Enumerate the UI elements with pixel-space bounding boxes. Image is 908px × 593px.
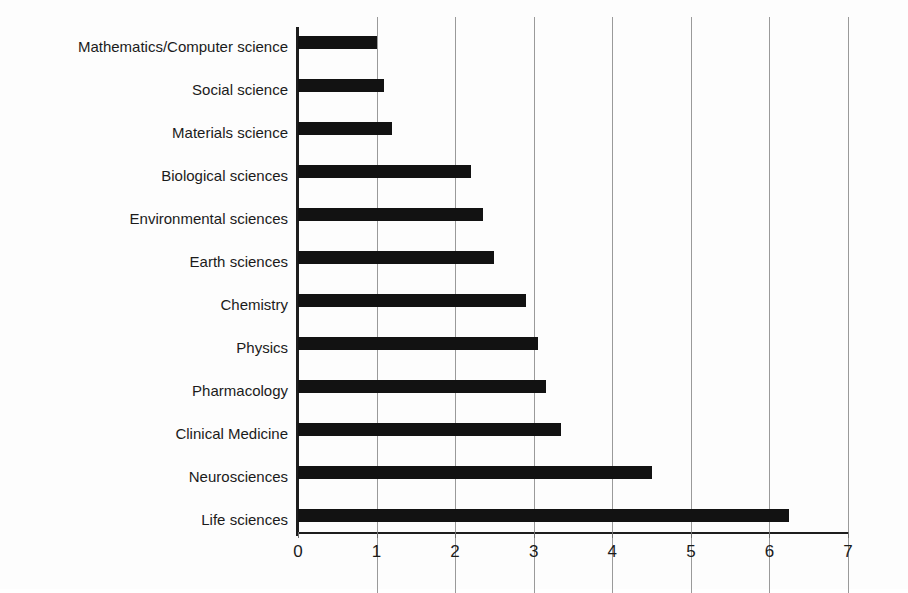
- y-axis-line: [296, 27, 299, 536]
- x-tick-label: 4: [592, 542, 632, 562]
- category-label: Mathematics/Computer science: [0, 38, 288, 55]
- x-tick-label: 3: [514, 542, 554, 562]
- gridline-6: [769, 17, 770, 593]
- x-tick-mark-0: [298, 532, 299, 538]
- category-label: Life sciences: [0, 511, 288, 528]
- category-label: Pharmacology: [0, 382, 288, 399]
- bar-segment: [298, 165, 471, 178]
- bar-segment: [298, 294, 526, 307]
- bar-segment: [298, 466, 652, 479]
- x-tick-mark-3: [534, 532, 535, 538]
- x-tick-mark-6: [769, 532, 770, 538]
- bar-segment: [298, 337, 538, 350]
- gridline-7: [848, 17, 849, 593]
- category-label: Biological sciences: [0, 167, 288, 184]
- x-tick-mark-7: [848, 532, 849, 538]
- gridline-5: [691, 17, 692, 593]
- x-axis-line: [296, 532, 849, 534]
- category-label: Earth sciences: [0, 253, 288, 270]
- category-label: Social science: [0, 81, 288, 98]
- bar-segment: [298, 380, 546, 393]
- bar-segment: [298, 36, 377, 49]
- category-label: Environmental sciences: [0, 210, 288, 227]
- bar-segment: [298, 208, 483, 221]
- category-label: Chemistry: [0, 296, 288, 313]
- gridline-4: [612, 17, 613, 593]
- category-label: Clinical Medicine: [0, 425, 288, 442]
- bar-segment: [298, 122, 392, 135]
- bar-segment: [298, 79, 384, 92]
- gridline-3: [534, 17, 535, 593]
- category-label: Neurosciences: [0, 468, 288, 485]
- bar-segment: [298, 251, 494, 264]
- bar-segment: [298, 423, 561, 436]
- x-tick-label: 7: [828, 542, 868, 562]
- x-tick-mark-4: [612, 532, 613, 538]
- category-label: Materials science: [0, 124, 288, 141]
- x-tick-label: 0: [278, 542, 318, 562]
- x-tick-mark-5: [691, 532, 692, 538]
- category-label: Physics: [0, 339, 288, 356]
- x-tick-label: 5: [671, 542, 711, 562]
- x-tick-mark-2: [455, 532, 456, 538]
- x-tick-label: 6: [749, 542, 789, 562]
- x-tick-label: 2: [435, 542, 475, 562]
- x-tick-label: 1: [357, 542, 397, 562]
- x-tick-mark-1: [377, 532, 378, 538]
- bar-segment: [298, 509, 789, 522]
